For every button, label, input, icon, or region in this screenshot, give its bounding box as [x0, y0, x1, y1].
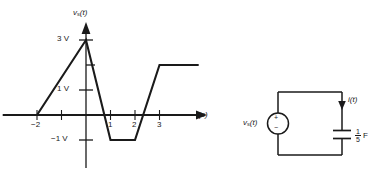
- source-label: vs(t): [243, 119, 257, 128]
- source-label-tail: (t): [250, 118, 258, 127]
- figure-container: vs(t) t(s) 3 V 1 V −1 V −2 1 2 3: [0, 0, 377, 179]
- capacitor-unit: F: [363, 131, 368, 140]
- capacitor-numerator: 1: [355, 128, 361, 136]
- y-tick-label-1v: 1 V: [57, 85, 69, 93]
- x-axis-label-text: t(s): [196, 110, 208, 119]
- source-minus-sign: −: [274, 124, 278, 131]
- x-tick-label-3: 3: [157, 121, 161, 129]
- capacitor-symbol: [333, 131, 351, 139]
- x-tick-label-1: 1: [108, 121, 112, 129]
- circuit-wires: [278, 92, 342, 155]
- circuit-diagram: [240, 0, 377, 179]
- capacitor-denominator: 5: [355, 136, 361, 143]
- x-tick-label-2: 2: [132, 121, 136, 129]
- waveform-plot: [0, 0, 240, 179]
- y-tick-marks: [79, 40, 95, 140]
- capacitor-value-label: 15F: [355, 128, 368, 144]
- y-axis-label-tail: (t): [80, 8, 88, 17]
- current-arrow-icon: [338, 101, 346, 110]
- current-label: i(t): [348, 96, 357, 104]
- x-tick-label-minus2: −2: [31, 121, 40, 129]
- y-tick-label-3v: 3 V: [57, 35, 69, 43]
- y-axis-label: vs(t): [73, 9, 87, 18]
- source-plus-sign: +: [274, 114, 278, 121]
- y-tick-label-minus1v: −1 V: [51, 135, 68, 143]
- capacitor-fraction: 15: [355, 128, 361, 144]
- x-axis-label: t(s): [196, 111, 208, 119]
